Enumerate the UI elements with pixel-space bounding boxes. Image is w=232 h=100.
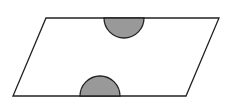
- parallelogram-diagram: [0, 0, 232, 100]
